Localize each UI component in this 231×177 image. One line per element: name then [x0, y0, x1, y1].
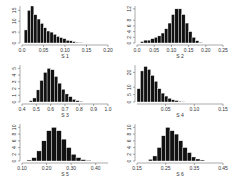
y-tick-label: 6 [126, 24, 132, 27]
y-tick-label: 12 [126, 6, 132, 12]
y-tick-label: 2 [126, 36, 132, 39]
histogram-bar [33, 98, 37, 102]
histogram-bar [158, 36, 161, 43]
x-tick-label: 0.25 [161, 165, 171, 171]
histogram-bar [61, 139, 66, 161]
histogram-bar [171, 15, 174, 43]
x-tick-label: 1.0 [105, 106, 112, 112]
histogram-bar [191, 157, 195, 161]
histogram-bar [86, 160, 91, 161]
histogram-bar [40, 80, 44, 102]
y-tick-label: 0 [126, 41, 132, 44]
histogram-bar [42, 141, 47, 161]
y-tick-label: 0 [126, 159, 132, 162]
y-tick-label: 4 [126, 30, 132, 33]
x-tick-label: 0.35 [189, 165, 199, 171]
y-tick-label: 2 [11, 87, 17, 90]
x-tick-label: 0.0 [134, 47, 141, 53]
histogram-bar [199, 42, 202, 43]
histogram-bar [171, 100, 174, 102]
histogram-bar [65, 94, 69, 102]
x-tick-label: 0.15 [184, 47, 194, 53]
histogram-bar [151, 39, 154, 43]
histogram-bar [175, 101, 178, 102]
histogram-s1-svg: 0.00.050.100.150.20S 1051015 [0, 0, 115, 59]
y-tick-label: 10 [126, 124, 132, 130]
x-tick-label: 0.20 [42, 165, 52, 171]
histogram-bar [76, 158, 81, 161]
histogram-bar [161, 136, 165, 161]
x-tick-label: 0.10 [167, 47, 177, 53]
histogram-bar [189, 32, 192, 43]
histogram-bar [168, 23, 171, 43]
y-tick-label: 2 [11, 153, 17, 156]
histogram-bar [53, 34, 56, 43]
x-tick-label: 0.15 [218, 106, 228, 112]
histogram-bar [183, 148, 187, 161]
x-tick-label: 0.9 [90, 106, 97, 112]
histogram-bar [165, 96, 168, 102]
histogram-bar [179, 141, 183, 161]
histogram-bar [63, 39, 66, 43]
histogram-bar [161, 93, 164, 102]
histogram-bar [196, 159, 200, 161]
histogram-bar [47, 31, 50, 43]
y-tick-label: 0 [11, 100, 17, 103]
histogram-bar [170, 131, 174, 161]
histogram-bar [79, 101, 83, 102]
histogram-bar [154, 37, 157, 43]
y-tick-label: 0 [126, 100, 132, 103]
y-tick-label: 20 [126, 69, 132, 75]
histogram-bar [144, 40, 147, 43]
y-tick-label: 6 [126, 139, 132, 142]
histogram-bar [51, 70, 55, 102]
histogram-bar [69, 41, 72, 43]
x-tick-label: 0.5 [33, 106, 40, 112]
histogram-bar [81, 160, 86, 161]
y-tick-label: 10 [126, 84, 132, 90]
x-axis-label: S 6 [176, 171, 184, 177]
histogram-bar [51, 127, 56, 161]
histogram-bar [29, 101, 33, 102]
histogram-bar [61, 89, 65, 102]
y-tick-label: 4 [11, 146, 17, 149]
histogram-bar [182, 15, 185, 43]
histogram-bar [66, 40, 69, 43]
histogram-bar [76, 101, 80, 102]
histogram-bar [50, 32, 53, 43]
histogram-bar [140, 71, 143, 102]
x-tick-label: 0.05 [39, 47, 49, 53]
y-tick-label: 8 [126, 19, 132, 22]
histogram-s5-svg: 0.100.200.300.40S 50246810 [0, 118, 115, 177]
x-tick-label: 0.6 [47, 106, 54, 112]
histogram-s1: 0.00.050.100.150.20S 1051015 [0, 0, 115, 59]
y-tick-label: 0 [11, 159, 17, 162]
histogram-bar [34, 15, 37, 43]
histogram-bar [31, 6, 34, 43]
histogram-bar [192, 37, 195, 43]
histogram-bar [56, 131, 61, 161]
histogram-bar [60, 38, 63, 43]
histogram-bar [168, 98, 171, 102]
histogram-bar [185, 23, 188, 43]
histogram-bar [47, 131, 52, 161]
y-tick-label: 5 [11, 31, 17, 34]
x-tick-label: 0.0 [19, 47, 26, 53]
histogram-bar [166, 127, 170, 161]
x-tick-label: 0.20 [103, 47, 113, 53]
histogram-s6: 0.150.250.350.45S 60246810 [115, 118, 230, 177]
histogram-bar [178, 101, 181, 102]
y-tick-label: 8 [126, 132, 132, 135]
histogram-bar [195, 41, 198, 43]
y-tick-label: 5 [11, 67, 17, 70]
histogram-bar [58, 83, 62, 102]
histogram-s4-svg: 0.050.100.15S 4051020 [115, 59, 230, 118]
histogram-bar [144, 66, 147, 102]
x-tick-label: 0.15 [82, 47, 92, 53]
x-tick-label: 0.20 [201, 47, 211, 53]
y-tick-label: 2 [126, 153, 132, 156]
histogram-bar [137, 89, 140, 102]
histogram-bar [200, 160, 204, 161]
histogram-bar [154, 81, 157, 102]
histogram-s3: 0.40.50.60.70.80.91.0S 3012345 [0, 59, 115, 118]
